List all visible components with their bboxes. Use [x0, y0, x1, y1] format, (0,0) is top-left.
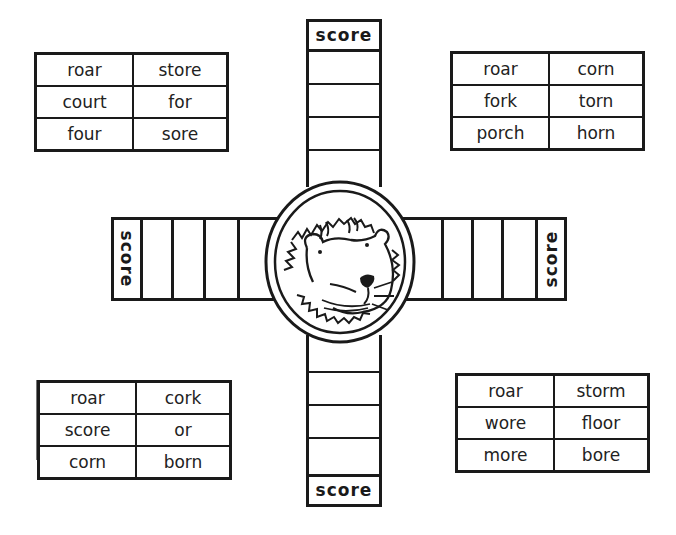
word-cell[interactable]: bore — [554, 439, 649, 472]
word-cell[interactable]: storm — [554, 375, 649, 408]
table-row: porch horn — [452, 117, 644, 150]
score-track-bottom — [306, 335, 382, 475]
table-row: corn born — [39, 446, 231, 479]
word-cell[interactable]: roar — [36, 54, 134, 87]
word-cell[interactable]: floor — [554, 407, 649, 439]
score-box-left[interactable]: score — [111, 217, 143, 301]
track-cell-divider — [441, 220, 444, 298]
table-row: fork torn — [452, 85, 644, 117]
word-cell[interactable]: roar — [39, 382, 137, 415]
table-row: court for — [36, 86, 228, 118]
word-table-top-left: roar store court for four sore — [34, 52, 229, 152]
table-row: score or — [39, 414, 231, 446]
word-cell[interactable]: court — [36, 86, 134, 118]
score-label: score — [316, 25, 373, 45]
word-cell[interactable]: porch — [452, 117, 550, 150]
table-row: wore floor — [457, 407, 649, 439]
word-cell[interactable]: born — [136, 446, 231, 479]
track-cell[interactable] — [309, 118, 379, 151]
table-row: four sore — [36, 118, 228, 151]
word-cell[interactable]: store — [133, 54, 228, 87]
edge-mark — [36, 380, 38, 460]
word-table-bottom-right: roar storm wore floor more bore — [455, 373, 650, 473]
word-cell[interactable]: corn — [549, 53, 644, 86]
word-table-bottom-left: roar cork score or corn born — [37, 380, 232, 480]
track-cell[interactable] — [309, 439, 379, 472]
track-cell[interactable] — [309, 406, 379, 439]
word-cell[interactable]: cork — [136, 382, 231, 415]
word-cell[interactable]: wore — [457, 407, 555, 439]
word-cell[interactable]: fork — [452, 85, 550, 117]
track-cell[interactable] — [309, 373, 379, 406]
track-cell-divider — [171, 220, 174, 298]
table-row: roar cork — [39, 382, 231, 415]
word-cell[interactable]: corn — [39, 446, 137, 479]
table-row: more bore — [457, 439, 649, 472]
word-cell[interactable]: torn — [549, 85, 644, 117]
word-cell[interactable]: sore — [133, 118, 228, 151]
table-row: roar corn — [452, 53, 644, 86]
score-track-top — [306, 52, 382, 187]
score-box-bottom[interactable]: score — [306, 474, 382, 507]
word-cell[interactable]: score — [39, 414, 137, 446]
track-cell-divider — [501, 220, 504, 298]
score-label: score — [316, 480, 373, 500]
game-board: roar store court for four sore roar corn… — [0, 0, 676, 535]
word-cell[interactable]: for — [133, 86, 228, 118]
score-label: score — [541, 231, 561, 288]
score-label: score — [117, 231, 137, 288]
track-cell-divider — [237, 220, 240, 298]
track-cell-divider — [203, 220, 206, 298]
track-cell-divider — [471, 220, 474, 298]
score-box-top[interactable]: score — [306, 19, 382, 52]
track-cell[interactable] — [309, 52, 379, 85]
table-row: roar storm — [457, 375, 649, 408]
word-cell[interactable]: more — [457, 439, 555, 472]
score-box-right[interactable]: score — [535, 217, 567, 301]
table-row: roar store — [36, 54, 228, 87]
word-cell[interactable]: roar — [452, 53, 550, 86]
word-cell[interactable]: roar — [457, 375, 555, 408]
track-cell[interactable] — [309, 85, 379, 118]
word-cell[interactable]: or — [136, 414, 231, 446]
word-cell[interactable]: four — [36, 118, 134, 151]
word-table-top-right: roar corn fork torn porch horn — [450, 51, 645, 151]
word-cell[interactable]: horn — [549, 117, 644, 150]
lion-face-icon — [262, 180, 422, 345]
